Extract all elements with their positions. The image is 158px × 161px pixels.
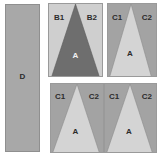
triangle-panel-c-top-right: C1 C2 A [107,3,157,77]
triangle-panel-c-bottom-left: C1 C2 A [50,83,104,153]
triangle-panel-c-bottom-right: C1 C2 A [104,83,157,153]
triangle-panel-b: B1 B2 A [48,3,103,77]
panel-c-bottom-right-graphic [105,84,156,152]
panel-b-graphic [49,4,102,76]
geometric-figure: D B1 B2 A C1 C2 A C1 C2 [0,0,158,161]
panel-c-top-graphic [108,4,156,76]
label-d: D [6,73,39,81]
rectangle-panel-d: D [5,4,40,152]
panel-c-bottom-left-graphic [51,84,103,152]
